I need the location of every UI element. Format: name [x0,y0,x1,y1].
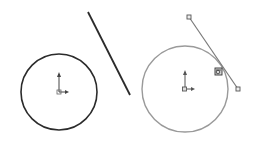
line-after-tangent[interactable] [189,17,238,89]
origin-icon-before [57,72,69,94]
sketch-drawing [0,0,254,146]
sketch-canvas [0,0,254,146]
endpoint-handle-bottom[interactable] [236,87,240,91]
tangent-relation-icon[interactable] [215,68,222,75]
origin-icon-after [183,70,196,91]
endpoint-handle-top[interactable] [187,15,191,19]
line-before[interactable] [88,12,130,95]
